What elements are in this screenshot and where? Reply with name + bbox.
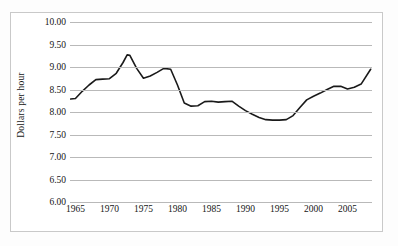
y-axis-tick-label: 8.00 xyxy=(6,107,66,117)
x-axis-tick-label: 2005 xyxy=(338,204,357,214)
gridline xyxy=(70,202,372,203)
y-axis-tick-label: 7.50 xyxy=(6,130,66,140)
series-polyline xyxy=(71,55,371,120)
y-axis-tick-label: 10.00 xyxy=(6,17,66,27)
x-axis-tick-label: 1985 xyxy=(202,204,221,214)
plot-area xyxy=(70,22,372,202)
x-axis-tick-label: 1980 xyxy=(168,204,187,214)
x-axis-tick-label: 1990 xyxy=(236,204,255,214)
chart-container: Dollars per hour 10.009.509.008.508.007.… xyxy=(0,0,398,246)
gridline xyxy=(70,45,372,46)
y-axis-tick-label: 8.50 xyxy=(6,85,66,95)
y-axis-tick-label: 9.00 xyxy=(6,62,66,72)
gridline xyxy=(70,67,372,68)
gridline xyxy=(70,135,372,136)
x-axis-tick-label: 1970 xyxy=(100,204,119,214)
gridline xyxy=(70,90,372,91)
gridline xyxy=(70,112,372,113)
x-axis-tick-labels: 196519701975198019851990199520002005 xyxy=(70,204,372,222)
x-axis-tick-label: 1975 xyxy=(134,204,153,214)
y-axis-tick-label: 9.50 xyxy=(6,40,66,50)
gridline xyxy=(70,157,372,158)
x-axis-tick-label: 1995 xyxy=(270,204,289,214)
x-axis-tick-label: 1965 xyxy=(66,204,85,214)
gridline xyxy=(70,180,372,181)
y-axis-tick-label: 7.00 xyxy=(6,152,66,162)
y-axis-tick-labels: 10.009.509.008.508.007.507.006.506.00 xyxy=(0,22,66,202)
y-axis-tick-label: 6.50 xyxy=(6,175,66,185)
gridline xyxy=(70,22,372,23)
x-axis-tick-label: 2000 xyxy=(304,204,323,214)
y-axis-tick-label: 6.00 xyxy=(6,197,66,207)
